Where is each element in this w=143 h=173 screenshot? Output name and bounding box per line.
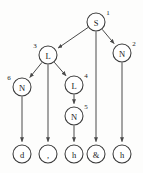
tree-node: d	[13, 145, 31, 163]
tree-node: N6	[7, 74, 31, 96]
parse-tree-diagram: S1N2L3L4N5N6d,h&h	[0, 0, 143, 173]
tree-node: L3	[33, 42, 57, 64]
tree-node: ,	[39, 145, 57, 163]
node-label: &	[93, 150, 100, 160]
node-label: L	[71, 81, 76, 91]
node-index-label: 2	[132, 40, 136, 48]
tree-edge	[102, 29, 114, 43]
tree-node: &	[87, 145, 105, 163]
node-label: N	[119, 49, 125, 59]
tree-edge	[54, 62, 66, 75]
node-index-label: 1	[106, 9, 110, 17]
tree-node: N2	[113, 40, 136, 62]
tree-graphic: S1N2L3L4N5N6d,h&h	[0, 0, 143, 173]
tree-node: N5	[65, 103, 88, 125]
node-index-label: 5	[84, 103, 88, 111]
node-index-label: 6	[7, 74, 11, 82]
node-layer: S1N2L3L4N5N6d,h&h	[7, 9, 136, 163]
tree-edge	[58, 27, 88, 48]
tree-node: L4	[65, 72, 88, 94]
tree-node: S1	[87, 9, 110, 31]
tree-node: h	[65, 145, 83, 163]
node-index-label: 3	[33, 42, 37, 50]
node-label: ,	[47, 150, 49, 160]
node-label: L	[45, 51, 50, 61]
node-label: N	[71, 112, 77, 122]
tree-node: h	[113, 145, 131, 163]
node-label: N	[19, 83, 25, 93]
node-label: S	[94, 18, 99, 28]
node-index-label: 4	[84, 72, 88, 80]
tree-edge	[30, 62, 42, 77]
